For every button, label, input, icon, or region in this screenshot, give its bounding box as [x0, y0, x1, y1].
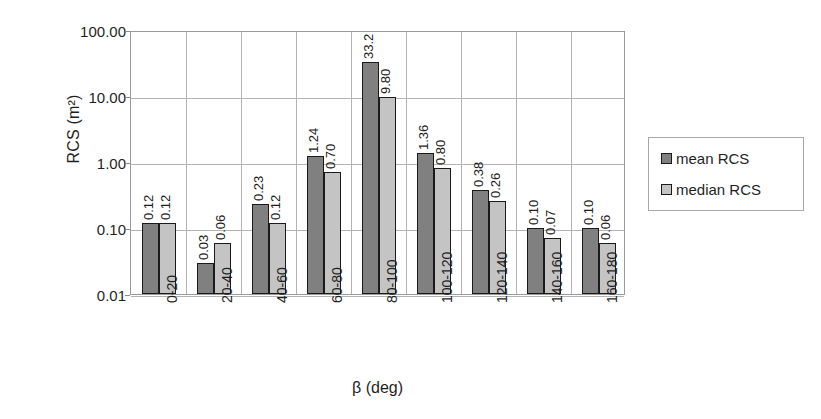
- bar-mean-rcs: [142, 223, 159, 294]
- bar-value-label: 0.03: [197, 234, 210, 259]
- bar-value-label: 1.24: [307, 128, 320, 153]
- bar-mean-rcs: [527, 228, 544, 294]
- y-axis-tick-label: 1.00: [54, 155, 126, 172]
- bar-value-label: 0.12: [142, 194, 155, 219]
- legend-swatch-median-rcs: [661, 184, 672, 195]
- bar-value-label: 0.10: [527, 200, 540, 225]
- y-axis-tick-label: 0.10: [54, 221, 126, 238]
- bar-group: 0.120.12: [131, 32, 186, 294]
- x-axis-title: β (deg): [130, 379, 625, 397]
- bar-group: 0.230.12: [241, 32, 296, 294]
- x-axis-tick-label: 60-80: [330, 267, 344, 303]
- bar-mean-rcs: [197, 263, 214, 294]
- bar-value-label: 0.23: [252, 176, 265, 201]
- y-axis-tick-label: 100.00: [54, 23, 126, 40]
- bar-value-label: 0.06: [214, 214, 227, 239]
- bar-mean-rcs: [307, 156, 324, 294]
- x-axis-tick-label: 20-40: [220, 267, 234, 303]
- bar-mean-rcs: [472, 190, 489, 294]
- x-axis-tick-label: 0-20: [165, 275, 179, 303]
- bar-value-label: 0.12: [159, 194, 172, 219]
- bar-value-label: 9.80: [379, 68, 392, 93]
- x-axis-tick-label: 100-120: [440, 252, 454, 303]
- x-axis-tick-label: 120-140: [495, 252, 509, 303]
- legend-swatch-mean-rcs: [661, 153, 672, 164]
- y-axis-tick-label: 0.01: [54, 287, 126, 304]
- bar-value-label: 0.10: [582, 200, 595, 225]
- x-axis-tick-label: 80-100: [385, 259, 399, 303]
- bar-value-label: 0.80: [434, 140, 447, 165]
- bar-value-label: 0.06: [599, 214, 612, 239]
- bar-value-label: 0.38: [472, 161, 485, 186]
- bar-mean-rcs: [252, 204, 269, 294]
- bar-mean-rcs: [362, 62, 379, 294]
- legend-item-mean-rcs: mean RCS: [661, 147, 793, 169]
- x-axis-tick-label: 40-60: [275, 267, 289, 303]
- bar-value-label: 0.12: [269, 194, 282, 219]
- y-axis-tick-labels: 100.0010.001.000.100.01: [48, 0, 126, 419]
- bar-value-label: 33.2: [362, 33, 375, 58]
- legend-label-median-rcs: median RCS: [676, 181, 761, 198]
- bar-group: 1.240.70: [296, 32, 351, 294]
- bar-value-label: 0.07: [544, 210, 557, 235]
- x-axis-tick-label: 160-180: [605, 252, 619, 303]
- legend-item-median-rcs: median RCS: [661, 178, 793, 200]
- chart-legend: mean RCS median RCS: [648, 137, 804, 211]
- bar-group: 0.030.06: [186, 32, 241, 294]
- bar-value-label: 0.70: [324, 144, 337, 169]
- x-axis-tick-label: 140-160: [550, 252, 564, 303]
- bar-mean-rcs: [582, 228, 599, 294]
- y-axis-tick-label: 10.00: [54, 89, 126, 106]
- legend-label-mean-rcs: mean RCS: [676, 150, 749, 167]
- bar-chart: RCS (m²) 100.0010.001.000.100.01 0.120.1…: [0, 0, 821, 419]
- bar-group: 33.29.80: [351, 32, 406, 294]
- bar-mean-rcs: [417, 153, 434, 294]
- bar-value-label: 0.26: [489, 172, 502, 197]
- bar-value-label: 1.36: [417, 125, 430, 150]
